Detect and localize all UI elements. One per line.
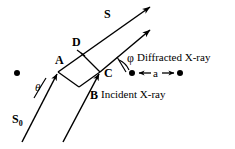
label-incident-beam-s0: S0 <box>12 113 23 128</box>
label-point-b: B <box>90 89 98 101</box>
segment-a-b <box>58 72 79 87</box>
atom-left-dot <box>14 70 20 76</box>
xray-diffraction-diagram: S D A C θ S0 φ Diffracted X-ray B Incide… <box>0 0 235 149</box>
atom-scale-left-dot <box>129 70 135 76</box>
label-incident-xray: Incident X-ray <box>101 89 165 100</box>
label-point-a: A <box>55 54 64 66</box>
diagram-canvas <box>0 0 235 149</box>
incident-ray-right <box>63 74 99 142</box>
label-incident-beam-s0-base: S <box>12 112 19 126</box>
label-point-c: C <box>104 67 113 79</box>
label-point-d: D <box>72 36 81 48</box>
label-diffracted-xray: Diffracted X-ray <box>137 52 210 63</box>
label-angle-phi: φ <box>127 52 134 64</box>
label-spacing-a: a <box>153 68 158 79</box>
atom-scale-right-dot <box>177 70 183 76</box>
label-scattered-beam-s: S <box>104 8 111 20</box>
label-angle-theta: θ <box>35 82 40 93</box>
label-incident-beam-s0-sub: 0 <box>19 119 23 128</box>
